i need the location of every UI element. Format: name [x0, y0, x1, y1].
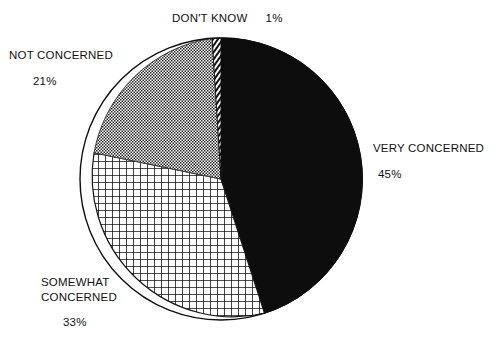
slice-label-somewhat-concerned-percent: 33%: [63, 315, 117, 330]
slice-label-very-concerned: VERY CONCERNED 45%: [373, 141, 484, 182]
slice-label-not-concerned-name: NOT CONCERNED: [9, 48, 113, 63]
pie-chart: DON'T KNOW1% NOT CONCERNED 21% VERY CONC…: [0, 0, 503, 338]
slice-label-not-concerned: NOT CONCERNED 21%: [9, 48, 113, 89]
slice-label-not-concerned-percent: 21%: [33, 74, 113, 89]
slice-label-dont-know-percent: 1%: [266, 11, 283, 26]
slice-label-dont-know: DON'T KNOW1%: [172, 11, 283, 26]
slice-label-dont-know-name: DON'T KNOW: [172, 11, 248, 26]
slice-label-somewhat-concerned-name-line1: SOMEWHAT: [41, 275, 117, 290]
slice-label-very-concerned-name: VERY CONCERNED: [373, 141, 484, 156]
slice-label-somewhat-concerned: SOMEWHAT CONCERNED 33%: [41, 275, 117, 330]
slice-label-very-concerned-percent: 45%: [378, 167, 484, 182]
slice-label-somewhat-concerned-name-line2: CONCERNED: [41, 290, 117, 305]
